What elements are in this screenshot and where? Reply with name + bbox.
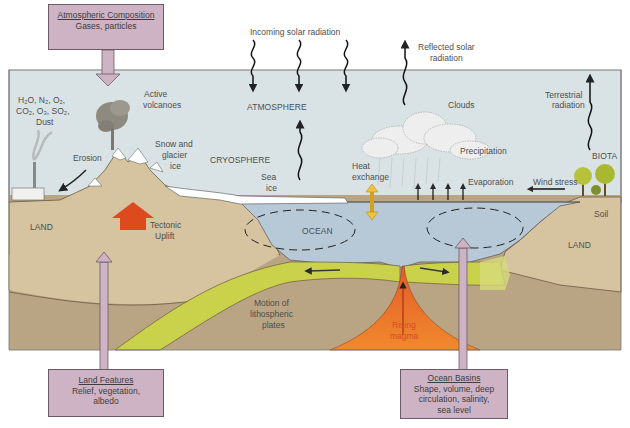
erosion-label: Erosion [73, 153, 102, 163]
land-right-label: LAND [568, 240, 591, 250]
biota-label: BIOTA [592, 151, 617, 161]
sea-ice-label-2: ice [266, 183, 277, 193]
atmospheric-composition-title: Atmospheric Composition [49, 10, 163, 21]
heat-exchange-label-2: exchange [352, 172, 389, 182]
incoming-solar-radiation-label: Incoming solar radiation [250, 27, 340, 37]
land-features-box: Land Features Relief, vegetation, albedo [48, 369, 164, 417]
rising-magma-label-2: magma [390, 331, 418, 341]
reflected-solar-label-1: Reflected solar [418, 42, 475, 52]
gases-label-1: H₂O, N₂, O₂, [18, 95, 65, 105]
ocean-basins-box: Ocean Basins Shape, volume, deep circula… [400, 369, 508, 419]
soil-label: Soil [594, 209, 608, 219]
motion-label-1: Motion of [254, 298, 289, 308]
motion-label-3: plates [262, 320, 285, 330]
land-features-title: Land Features [49, 375, 163, 386]
land-left-label: LAND [30, 222, 53, 232]
precipitation-label: Precipitation [460, 146, 507, 156]
snow-label-2: glacier [162, 150, 187, 160]
ocean-basins-line-3: sea level [401, 405, 507, 416]
ocean-basins-line-2: circulation, salinity, [401, 394, 507, 405]
active-volcanoes-label-1: Active [144, 89, 167, 99]
climate-system-diagram: Atmospheric Composition Gases, particles… [0, 0, 630, 428]
terrestrial-radiation-label-1: Terrestrial [545, 90, 582, 100]
sea-ice-label-1: Sea [261, 172, 276, 182]
atmosphere-label: ATMOSPHERE [247, 102, 307, 112]
atmospheric-composition-box: Atmospheric Composition Gases, particles [48, 4, 164, 50]
ocean-basins-line-1: Shape, volume, deep [401, 384, 507, 395]
evaporation-label: Evaporation [468, 177, 513, 187]
snow-label-1: Snow and [155, 139, 193, 149]
gases-label-2: CO₂, O₃, SO₂, [16, 106, 70, 116]
atmospheric-composition-detail: Gases, particles [49, 21, 163, 32]
reflected-solar-label-2: radiation [430, 53, 463, 63]
clouds-label: Clouds [448, 100, 474, 110]
land-features-line-2: albedo [49, 396, 163, 407]
gases-label-3: Dust [36, 117, 53, 127]
heat-exchange-label-1: Heat [352, 161, 370, 171]
ocean-label: OCEAN [302, 226, 333, 236]
snow-label-3: ice [170, 161, 181, 171]
rising-magma-label-1: Rising [392, 320, 416, 330]
tectonic-uplift-label-1: Tectonic [150, 220, 181, 230]
motion-label-2: lithospheric [250, 309, 293, 319]
land-features-line-1: Relief, vegetation, [49, 386, 163, 397]
cryosphere-label: CRYOSPHERE [210, 155, 270, 165]
active-volcanoes-label-2: volcanoes [143, 100, 181, 110]
ocean-basins-title: Ocean Basins [401, 373, 507, 384]
terrestrial-radiation-label-2: radiation [552, 100, 585, 110]
wind-stress-label: Wind stress [533, 177, 577, 187]
tectonic-uplift-label-2: Uplift [155, 231, 174, 241]
